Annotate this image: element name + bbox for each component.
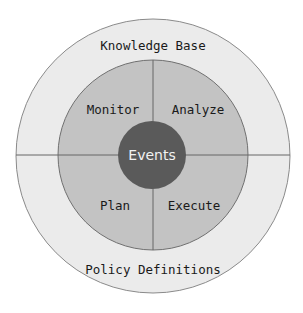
label-knowledge-base: Knowledge Base [100, 38, 205, 53]
label-execute: Execute [168, 198, 221, 213]
label-monitor: Monitor [87, 102, 140, 117]
label-events: Events [128, 147, 175, 163]
mape-k-diagram: Knowledge Base Policy Definitions Monito… [0, 0, 303, 313]
label-policy-definitions: Policy Definitions [85, 262, 220, 277]
label-analyze: Analyze [172, 102, 225, 117]
label-plan: Plan [100, 198, 130, 213]
